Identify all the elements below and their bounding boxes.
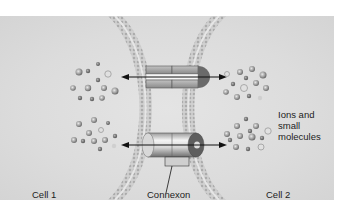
connexon-label: Connexon xyxy=(147,189,190,200)
molecule-cluster-bottom-left xyxy=(71,117,117,151)
diagram-canvas xyxy=(0,16,334,200)
ions-molecules-label: Ions and small molecules xyxy=(278,109,334,142)
membrane-bilayer-left xyxy=(108,16,152,200)
gap-junction-diagram: Cell 1 Connexon Cell 2 Ions and small mo… xyxy=(0,16,334,200)
molecule-cluster-top-left xyxy=(70,62,118,101)
molecule-cluster-bottom-right xyxy=(224,117,271,151)
ions-label-line-2: small xyxy=(278,120,334,131)
ions-label-line-1: Ions and xyxy=(278,109,334,120)
membrane-bilayer-right xyxy=(182,16,226,200)
ions-label-line-3: molecules xyxy=(278,131,334,142)
molecule-cluster-top-right xyxy=(223,66,269,100)
cell-1-label: Cell 1 xyxy=(32,189,56,200)
cell-2-label: Cell 2 xyxy=(266,189,290,200)
